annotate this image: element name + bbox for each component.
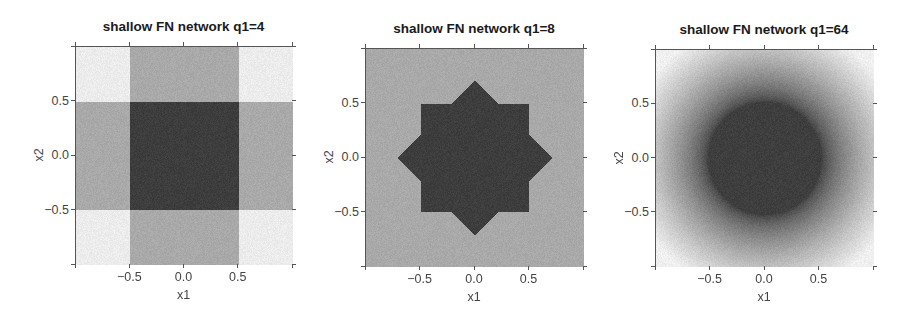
tick-mark xyxy=(129,264,130,268)
plot-area xyxy=(75,46,292,264)
x-axis-label: x1 xyxy=(757,290,770,304)
tick-mark xyxy=(361,266,365,267)
tick-mark xyxy=(292,155,296,156)
y-tick-label: −0.5 xyxy=(334,205,359,219)
tick-mark xyxy=(292,264,296,265)
chart-title: shallow FN network q1=4 xyxy=(103,19,265,34)
y-tick-label: 0.5 xyxy=(52,94,69,108)
tick-mark xyxy=(651,211,655,212)
tick-mark xyxy=(873,157,877,158)
y-tick-label: 0.0 xyxy=(632,151,649,165)
tick-mark xyxy=(651,266,655,267)
tick-mark xyxy=(651,157,655,158)
tick-mark xyxy=(129,42,130,46)
x-tick-label: 0.0 xyxy=(175,270,192,284)
tick-mark xyxy=(651,103,655,104)
tick-mark xyxy=(361,157,365,158)
tick-mark xyxy=(71,155,75,156)
tick-mark xyxy=(365,266,366,270)
chart-title: shallow FN network q1=64 xyxy=(679,22,848,37)
x-tick-label: 0.5 xyxy=(520,272,537,286)
tick-mark xyxy=(361,211,365,212)
tick-mark xyxy=(583,266,584,270)
tick-mark xyxy=(419,44,420,48)
x-tick-label: −0.5 xyxy=(697,272,722,286)
tick-mark xyxy=(709,45,710,49)
tick-mark xyxy=(528,266,529,270)
y-axis-label: x2 xyxy=(32,148,46,161)
tick-mark xyxy=(292,264,293,268)
x-tick-label: 0.5 xyxy=(810,272,827,286)
tick-mark xyxy=(583,157,587,158)
tick-mark xyxy=(237,42,238,46)
tick-mark xyxy=(873,103,877,104)
tick-mark xyxy=(818,266,819,270)
tick-mark xyxy=(361,102,365,103)
tick-mark xyxy=(71,46,75,47)
tick-mark xyxy=(474,44,475,48)
heatmap-canvas xyxy=(76,47,293,265)
x-tick-label: −0.5 xyxy=(407,272,432,286)
y-axis-label: x2 xyxy=(322,150,336,163)
tick-mark xyxy=(361,48,365,49)
x-axis-label: x1 xyxy=(177,288,190,302)
tick-mark xyxy=(873,266,874,270)
tick-mark xyxy=(583,266,587,267)
tick-mark xyxy=(528,44,529,48)
y-axis-label: x2 xyxy=(612,151,626,164)
y-tick-label: 0.5 xyxy=(632,96,649,110)
chart-title: shallow FN network q1=8 xyxy=(393,21,555,36)
tick-mark xyxy=(873,211,877,212)
x-axis-label: x1 xyxy=(467,290,480,304)
y-tick-label: −0.5 xyxy=(624,205,649,219)
tick-mark xyxy=(583,102,587,103)
y-tick-label: 0.5 xyxy=(342,96,359,110)
y-tick-label: 0.0 xyxy=(52,148,69,162)
tick-mark xyxy=(873,266,877,267)
tick-mark xyxy=(292,100,296,101)
tick-mark xyxy=(71,100,75,101)
y-tick-label: −0.5 xyxy=(44,203,69,217)
tick-mark xyxy=(183,42,184,46)
tick-mark xyxy=(873,49,877,50)
tick-mark xyxy=(237,264,238,268)
plot-area xyxy=(655,49,873,266)
heatmap-canvas xyxy=(656,50,874,267)
tick-mark xyxy=(818,45,819,49)
x-tick-label: 0.0 xyxy=(755,272,772,286)
tick-mark xyxy=(655,266,656,270)
tick-mark xyxy=(292,209,296,210)
y-tick-label: 0.0 xyxy=(342,150,359,164)
x-tick-label: −0.5 xyxy=(117,270,142,284)
tick-mark xyxy=(183,264,184,268)
tick-mark xyxy=(583,48,587,49)
tick-mark xyxy=(75,264,76,268)
tick-mark xyxy=(474,266,475,270)
tick-mark xyxy=(764,45,765,49)
tick-mark xyxy=(71,209,75,210)
tick-mark xyxy=(583,211,587,212)
plot-area xyxy=(365,48,583,266)
heatmap-canvas xyxy=(366,49,584,267)
x-tick-label: 0.0 xyxy=(465,272,482,286)
tick-mark xyxy=(651,49,655,50)
tick-mark xyxy=(764,266,765,270)
tick-mark xyxy=(71,264,75,265)
tick-mark xyxy=(709,266,710,270)
x-tick-label: 0.5 xyxy=(229,270,246,284)
tick-mark xyxy=(419,266,420,270)
tick-mark xyxy=(292,46,296,47)
